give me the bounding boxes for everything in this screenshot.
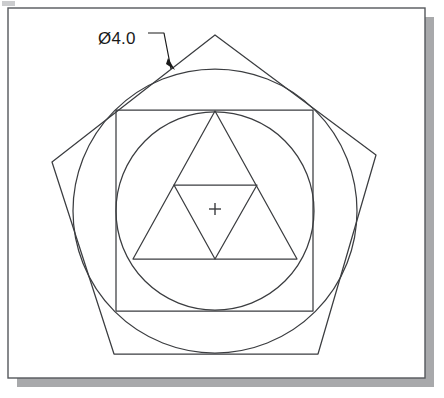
drawing-sheet [8,8,425,378]
scan-artifact [2,1,15,6]
dimension-label: Ø4.0 [98,29,136,48]
technical-drawing: Ø4.0 [0,0,444,398]
drawing-canvas: Ø4.0 [0,0,444,398]
